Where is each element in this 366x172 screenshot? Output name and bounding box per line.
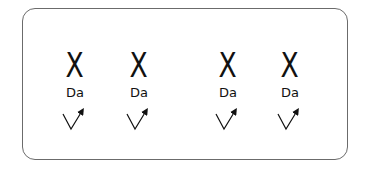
symbol-group-2: X Da [119, 48, 159, 132]
check-arrow-icon [276, 106, 304, 132]
x-mark: X [130, 48, 148, 82]
x-mark: X [66, 48, 84, 82]
symbol-label: Da [281, 86, 299, 100]
symbol-group-4: X Da [270, 48, 310, 132]
symbol-group-3: X Da [208, 48, 248, 132]
check-arrow-icon [214, 106, 242, 132]
check-arrow-icon [125, 106, 153, 132]
symbol-label: Da [66, 86, 84, 100]
check-arrow-icon [61, 106, 89, 132]
symbol-label: Da [130, 86, 148, 100]
symbol-group-1: X Da [55, 48, 95, 132]
symbol-label: Da [219, 86, 237, 100]
x-mark: X [219, 48, 237, 82]
x-mark: X [281, 48, 299, 82]
